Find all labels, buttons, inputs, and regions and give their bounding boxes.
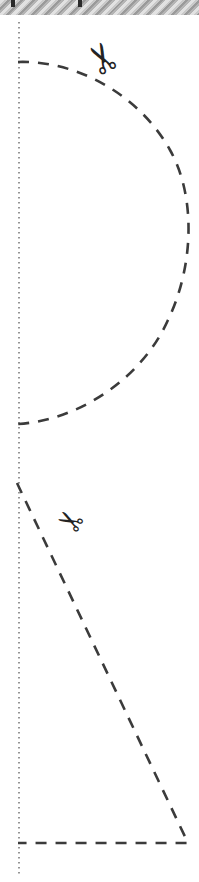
- cut-pattern-page: ✂ ✂: [0, 0, 199, 882]
- dashed-semicircle-cut-line: [18, 62, 189, 424]
- dashed-triangle-cut-line: [17, 483, 188, 843]
- cut-lines-canvas: [0, 0, 199, 882]
